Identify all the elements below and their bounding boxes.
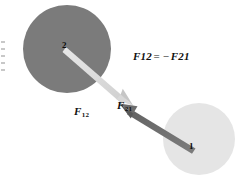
body-2-label: 2 [62,41,67,50]
body-1-label: 1 [189,142,194,151]
force-12-label: F12 [74,106,89,119]
page-margin-artifact [0,36,7,82]
equation-rhs-subscript: 21 [178,50,189,62]
equation-equals-sign: = [152,50,161,62]
figure-canvas [0,0,240,188]
force-21-label: F21 [117,100,132,113]
newtons-third-law-figure: 2 1 F12 F21 F12=−F21 [0,0,240,188]
equation-lhs-subscript: 12 [141,50,152,62]
force-21-subscript: 21 [124,105,132,113]
equation-lhs-symbol: F [133,50,141,62]
force-12-subscript: 12 [81,111,89,119]
equation-minus-sign: − [161,50,170,62]
newtons-third-law-equation: F12=−F21 [133,50,190,62]
